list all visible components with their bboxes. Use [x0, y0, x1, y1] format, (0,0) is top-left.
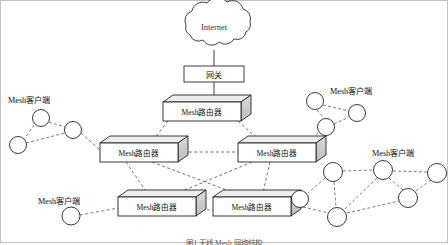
mesh-router-label: Mesh路由器 — [232, 202, 273, 212]
router-top-face — [100, 136, 188, 143]
client-node[interactable] — [318, 119, 335, 136]
mesh-router-label: Mesh路由器 — [257, 148, 298, 158]
mesh-router-top[interactable]: Mesh路由器 — [163, 95, 251, 121]
internet-cloud: Internet — [185, 0, 251, 45]
client-label-bottom-left: Mesh客户端 — [38, 198, 80, 206]
client-node[interactable] — [33, 110, 50, 127]
client-label-top-right: Mesh客户端 — [330, 88, 372, 96]
client-node[interactable] — [328, 208, 347, 227]
client-node[interactable] — [349, 105, 366, 122]
router-top-face — [163, 95, 251, 102]
mesh-router-mid-left[interactable]: Mesh路由器 — [100, 136, 188, 162]
client-node[interactable] — [324, 163, 343, 182]
mesh-router-bottom-right[interactable]: Mesh路由器 — [213, 190, 301, 216]
client-node[interactable] — [428, 164, 447, 183]
client-node[interactable] — [62, 207, 80, 225]
client-node[interactable] — [307, 93, 324, 110]
mesh-router-label: Mesh路由器 — [119, 148, 160, 158]
client-label-bottom-right: Mesh客户端 — [372, 150, 414, 158]
client-node[interactable] — [292, 191, 309, 208]
figure-caption: 图1 无线 Mesh 网络结构 — [0, 237, 448, 245]
client-label-top-left: Mesh客户端 — [8, 97, 50, 105]
router-top-face — [118, 190, 206, 197]
client-node[interactable] — [10, 137, 27, 154]
mesh-router-label: Mesh路由器 — [182, 107, 223, 117]
mesh-router-mid-right[interactable]: Mesh路由器 — [238, 136, 326, 162]
client-node[interactable] — [399, 189, 418, 208]
mesh-router-label: Mesh路由器 — [137, 202, 178, 212]
client-node[interactable] — [65, 122, 82, 139]
cloud-label: Internet — [201, 23, 228, 32]
mesh-router-bottom-left[interactable]: Mesh路由器 — [118, 190, 206, 216]
client-node[interactable] — [374, 161, 393, 180]
gateway-node[interactable]: 网关 — [184, 66, 244, 82]
router-top-face — [238, 136, 326, 143]
router-top-face — [213, 190, 301, 197]
gateway-label: 网关 — [206, 70, 222, 80]
